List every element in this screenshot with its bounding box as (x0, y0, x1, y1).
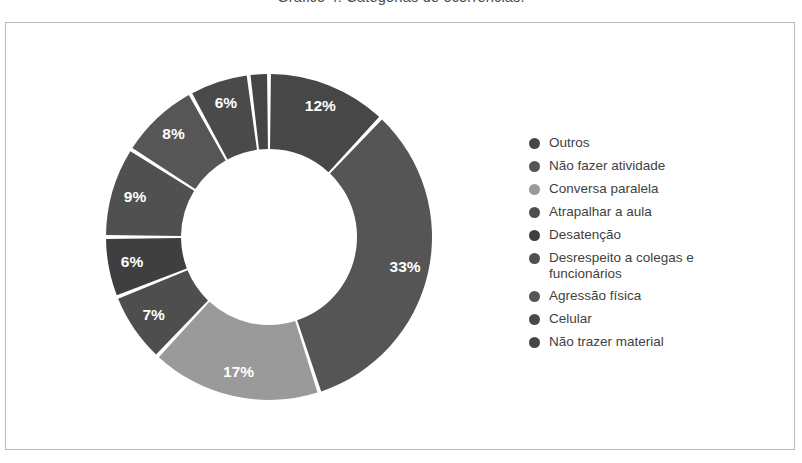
legend-item[interactable]: Não fazer atividade (529, 158, 779, 174)
legend-swatch-icon (529, 138, 540, 149)
legend-item-label: Desatenção (549, 227, 621, 243)
donut-slice-group (106, 74, 432, 400)
legend-swatch-icon (529, 253, 540, 264)
legend-item-label: Atrapalhar a aula (549, 204, 652, 220)
legend-item[interactable]: Desrespeito a colegas e funcionários (529, 250, 779, 282)
legend-item[interactable]: Desatenção (529, 227, 779, 243)
legend-item-label: Não trazer material (549, 334, 664, 350)
legend-item[interactable]: Outros (529, 135, 779, 151)
chart-legend: OutrosNão fazer atividadeConversa parale… (529, 135, 779, 357)
legend-item[interactable]: Não trazer material (529, 334, 779, 350)
donut-chart-plot-area: 12%33%17%7%6%9%8%6% (6, 23, 506, 451)
donut-slice-value-label: 6% (215, 94, 238, 111)
donut-slice-value-label: 7% (142, 306, 165, 323)
legend-swatch-icon (529, 184, 540, 195)
donut-slice-value-label: 33% (390, 258, 421, 275)
figure-title: Gráfico 4: Categorias de ocorrências. (0, 0, 802, 5)
legend-item-label: Celular (549, 311, 592, 327)
legend-item[interactable]: Atrapalhar a aula (529, 204, 779, 220)
legend-item-label: Outros (549, 135, 590, 151)
legend-swatch-icon (529, 230, 540, 241)
legend-item-label: Desrespeito a colegas e funcionários (549, 250, 729, 282)
legend-item-label: Conversa paralela (549, 181, 659, 197)
legend-swatch-icon (529, 337, 540, 348)
donut-slice-value-label: 6% (121, 253, 144, 270)
legend-item-label: Agressão física (549, 288, 641, 304)
legend-item[interactable]: Conversa paralela (529, 181, 779, 197)
legend-item[interactable]: Agressão física (529, 288, 779, 304)
chart-frame: 12%33%17%7%6%9%8%6% OutrosNão fazer ativ… (5, 22, 795, 450)
donut-slice-value-label: 12% (305, 97, 336, 114)
legend-swatch-icon (529, 161, 540, 172)
donut-slice-value-label: 8% (162, 125, 185, 142)
donut-slice-value-label: 17% (223, 363, 254, 380)
legend-swatch-icon (529, 207, 540, 218)
donut-chart: 12%33%17%7%6%9%8%6% (104, 39, 434, 435)
legend-item-label: Não fazer atividade (549, 158, 665, 174)
legend-swatch-icon (529, 314, 540, 325)
donut-slice-value-label: 9% (124, 188, 147, 205)
legend-swatch-icon (529, 291, 540, 302)
legend-item[interactable]: Celular (529, 311, 779, 327)
